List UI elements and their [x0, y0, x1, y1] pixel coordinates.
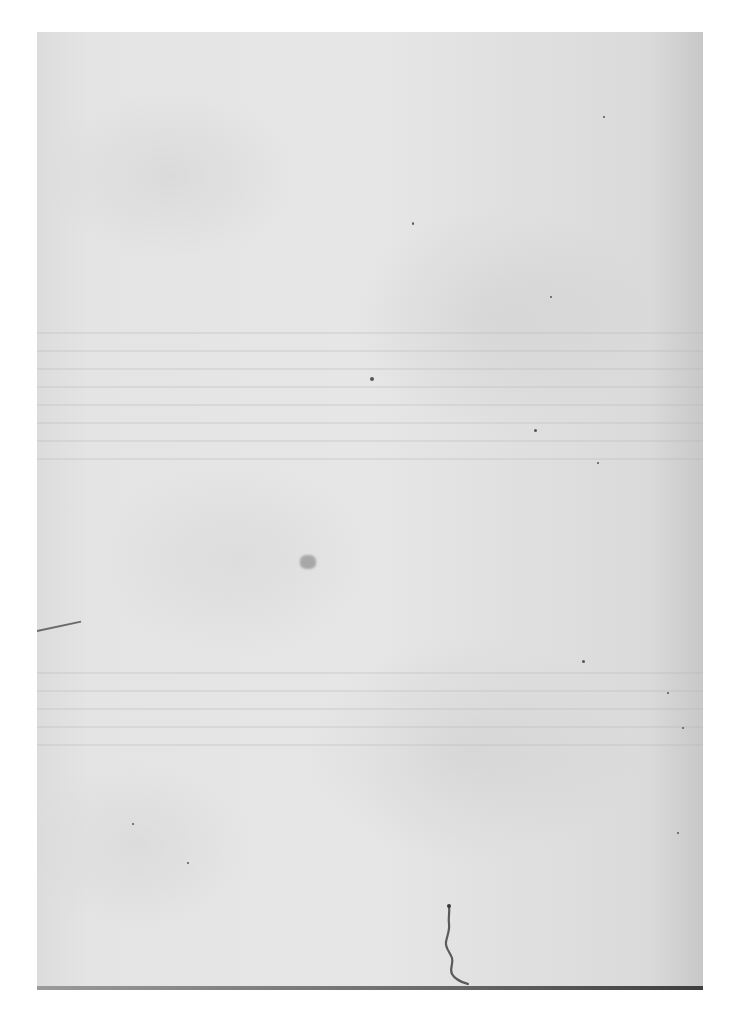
bleed-through-line: [37, 672, 703, 674]
speck: [187, 862, 189, 864]
bleed-through-line: [37, 690, 703, 692]
bleed-through-line: [37, 726, 703, 728]
bleed-through-line: [37, 350, 703, 352]
bleed-through-line: [37, 332, 703, 334]
page-bottom-edge: [37, 986, 703, 990]
ink-squiggle-icon: [440, 902, 480, 990]
speck: [412, 222, 414, 225]
bleed-through-line: [37, 708, 703, 710]
speck: [550, 296, 552, 298]
page-text: [37, 32, 38, 33]
bleed-through-line: [37, 440, 703, 442]
speck: [667, 692, 669, 694]
scan-mark: [37, 621, 81, 632]
bleed-through-line: [37, 744, 703, 746]
scan-canvas: [0, 0, 734, 1032]
speck: [677, 832, 679, 834]
speck: [132, 823, 134, 825]
speck: [534, 429, 537, 432]
speck: [370, 377, 374, 381]
speck: [682, 727, 684, 729]
bleed-through-line: [37, 458, 703, 460]
speck: [603, 116, 605, 118]
smudge: [300, 555, 316, 569]
speck: [597, 462, 599, 464]
bleed-through-line: [37, 386, 703, 388]
paper-page: [37, 32, 703, 990]
bleed-through-line: [37, 404, 703, 406]
speck: [582, 660, 585, 663]
bleed-through-line: [37, 422, 703, 424]
bleed-through-line: [37, 368, 703, 370]
